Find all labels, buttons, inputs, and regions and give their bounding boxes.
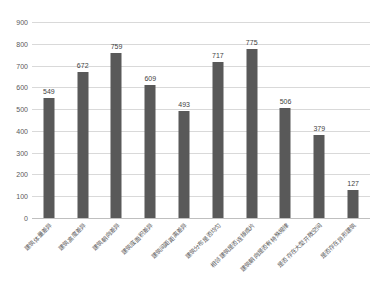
y-axis-tick-label: 200	[2, 171, 28, 178]
bar[interactable]	[280, 108, 291, 218]
x-axis-category-label: 建筑高度差异	[57, 222, 87, 252]
bar-value-label: 609	[144, 75, 156, 82]
x-axis-category-label-text: 建筑分布是否均匀	[184, 222, 222, 260]
bar-slot: 506	[269, 22, 303, 218]
bar-value-label: 506	[280, 98, 292, 105]
bar[interactable]	[212, 62, 223, 218]
x-axis-category-labels: 建筑体量差异建筑高度差异建筑朝向差异建筑底面积差异建筑间距距离差异建筑分布是否均…	[32, 220, 370, 297]
plot-area: 549672759609493717775506379127	[32, 22, 370, 218]
bar-slot: 549	[32, 22, 66, 218]
bar[interactable]	[43, 98, 54, 218]
x-axis-category-label: 建筑分布是否均匀	[184, 222, 222, 260]
bar[interactable]	[179, 111, 190, 218]
bar[interactable]	[348, 190, 359, 218]
bar-slot: 717	[201, 22, 235, 218]
bar-slot: 672	[66, 22, 100, 218]
bar-slot: 127	[336, 22, 370, 218]
bar-value-label: 379	[313, 125, 325, 132]
bar[interactable]	[77, 72, 88, 218]
bar-slot: 609	[133, 22, 167, 218]
bar-value-label: 717	[212, 52, 224, 59]
x-axis-category-label-text: 建筑高度差异	[57, 222, 87, 252]
y-axis-tick-label: 0	[2, 215, 28, 222]
y-axis-tick-label: 100	[2, 193, 28, 200]
y-axis-tick-label: 500	[2, 106, 28, 113]
bar-value-label: 775	[246, 39, 258, 46]
y-axis-tick-label: 600	[2, 84, 28, 91]
y-axis-tick-label: 300	[2, 149, 28, 156]
bar-slot: 759	[100, 22, 134, 218]
x-axis-category-label: 是否存在异形建筑	[319, 222, 357, 260]
x-axis-category-label-text: 建筑间距距离差异	[150, 222, 188, 260]
y-axis-tick-label: 400	[2, 127, 28, 134]
x-axis-category-label-text: 建筑体量差异	[23, 222, 53, 252]
bar-slot: 775	[235, 22, 269, 218]
bar[interactable]	[246, 49, 257, 218]
y-axis-tick-labels: 0100200300400500600700800900	[0, 22, 28, 218]
bar-value-label: 759	[111, 43, 123, 50]
bar[interactable]	[111, 53, 122, 218]
bar[interactable]	[145, 85, 156, 218]
x-axis-category-label: 建筑底面积差异	[121, 222, 155, 256]
bar-chart: 0100200300400500600700800900 54967275960…	[0, 0, 376, 297]
y-axis-tick-label: 900	[2, 19, 28, 26]
bar[interactable]	[314, 135, 325, 218]
y-axis-tick-label: 700	[2, 62, 28, 69]
x-axis-category-label: 建筑朝向差异	[91, 222, 121, 252]
y-axis-tick-label: 800	[2, 40, 28, 47]
bar-value-label: 549	[43, 88, 55, 95]
bar-value-label: 493	[178, 101, 190, 108]
x-axis-category-label: 建筑间距距离差异	[150, 222, 188, 260]
x-axis-category-label-text: 建筑朝向差异	[91, 222, 121, 252]
x-axis-category-label-text: 是否存在异形建筑	[319, 222, 357, 260]
bar-slot: 379	[302, 22, 336, 218]
x-axis-line	[32, 218, 370, 219]
bar-value-label: 127	[347, 180, 359, 187]
x-axis-category-label-text: 建筑底面积差异	[121, 222, 155, 256]
x-axis-category-label: 建筑体量差异	[23, 222, 53, 252]
bar-slot: 493	[167, 22, 201, 218]
bar-value-label: 672	[77, 62, 89, 69]
